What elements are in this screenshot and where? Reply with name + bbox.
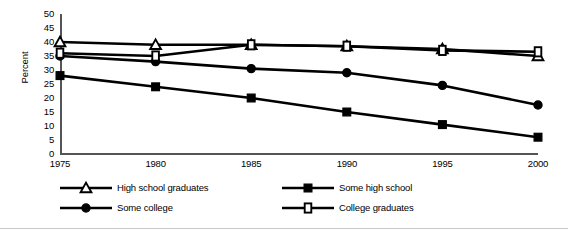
chart-legend: High school graduatesSome high schoolSom… <box>60 180 480 218</box>
data-point-marker <box>55 37 66 47</box>
legend-marker-filled-circle-icon <box>60 200 112 216</box>
y-tick-label: 5 <box>24 135 54 145</box>
data-point-marker <box>247 94 255 102</box>
y-tick-label: 15 <box>24 107 54 117</box>
data-point-marker <box>248 40 255 49</box>
x-tick-label: 1990 <box>337 158 357 169</box>
data-point-marker <box>152 51 159 60</box>
x-tick-label: 1985 <box>241 158 261 169</box>
data-point-marker <box>535 47 542 56</box>
y-tick-label: 10 <box>24 121 54 131</box>
data-point-marker <box>82 204 90 212</box>
data-point-marker <box>534 101 542 109</box>
series-lines <box>60 14 538 154</box>
legend-item-label: College graduates <box>339 203 414 213</box>
series-line <box>60 56 538 105</box>
series-line <box>60 76 538 138</box>
data-point-marker <box>56 72 64 80</box>
data-point-marker <box>439 46 446 55</box>
plot-area <box>60 14 538 154</box>
legend-marker-open-square-icon <box>282 200 334 216</box>
series-some-college <box>56 52 542 109</box>
legend-item-label: Some college <box>117 203 173 213</box>
series-high-school-graduates <box>55 37 544 61</box>
data-point-marker <box>304 184 312 192</box>
series-line <box>60 42 538 56</box>
legend-item-label: Some high school <box>339 183 412 193</box>
legend-item[interactable]: High school graduates <box>60 180 208 196</box>
x-tick-label: 1975 <box>50 158 70 169</box>
legend-item[interactable]: College graduates <box>282 200 414 216</box>
data-point-marker <box>57 49 64 58</box>
x-tick-label: 2000 <box>528 158 548 169</box>
y-tick-label: 50 <box>24 9 54 19</box>
legend-marker-filled-square-icon <box>282 180 334 196</box>
legend-marker-open-triangle-icon <box>60 180 112 196</box>
series-line <box>60 45 538 56</box>
y-axis-title: Percent <box>19 28 30 108</box>
chart-figure: 50454035302520151050 Percent 19751980198… <box>0 0 568 236</box>
data-point-marker <box>247 65 255 73</box>
x-tick-label: 1980 <box>145 158 165 169</box>
data-point-marker <box>150 39 161 49</box>
series-some-high-school <box>56 72 542 141</box>
data-point-marker <box>534 133 542 141</box>
legend-item[interactable]: Some college <box>60 200 173 216</box>
data-point-marker <box>438 81 446 89</box>
x-tick-label: 1995 <box>432 158 452 169</box>
data-point-marker <box>344 42 351 51</box>
data-point-marker <box>343 108 351 116</box>
data-point-marker <box>152 83 160 91</box>
legend-item[interactable]: Some high school <box>282 180 412 196</box>
x-axis-tick-labels: 197519801985199019952000 <box>60 158 538 172</box>
bottom-divider <box>0 228 568 229</box>
data-point-marker <box>343 69 351 77</box>
data-point-marker <box>439 121 447 129</box>
legend-item-label: High school graduates <box>117 183 208 193</box>
data-point-marker <box>81 183 92 193</box>
data-point-marker <box>305 203 312 212</box>
